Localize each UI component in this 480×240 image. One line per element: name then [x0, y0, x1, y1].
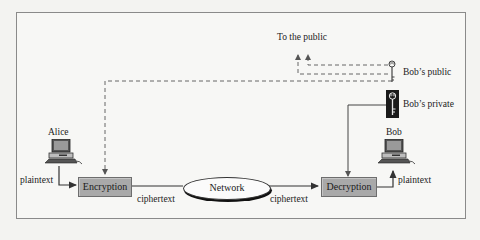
public-key-label: Bob’s public	[403, 67, 451, 78]
encryption-box: Encryption	[78, 177, 132, 197]
encryption-ciphertext-label: ciphertext	[137, 194, 175, 205]
alice-plaintext-label: plaintext	[20, 175, 53, 186]
bob-label: Bob	[386, 127, 402, 138]
to-the-public-label: To the public	[277, 32, 327, 43]
decryption-box: Decryption	[321, 177, 377, 197]
public-key-icon	[387, 60, 397, 84]
private-key-label: Bob’s private	[403, 99, 454, 110]
alice-label: Alice	[48, 127, 69, 138]
bob-computer-icon	[377, 139, 417, 166]
network-ciphertext-label: ciphertext	[270, 194, 308, 205]
network-node: Network	[183, 177, 271, 200]
private-key-icon	[386, 90, 399, 118]
alice-computer-icon	[44, 139, 84, 166]
bob-plaintext-label: plaintext	[398, 175, 431, 186]
